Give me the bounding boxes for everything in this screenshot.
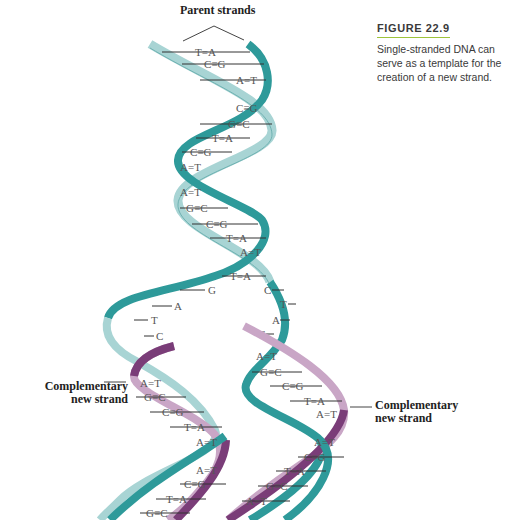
svg-text:C≡G: C≡G bbox=[282, 380, 304, 392]
svg-text:G: G bbox=[208, 284, 216, 296]
svg-text:A=T: A=T bbox=[236, 74, 257, 86]
svg-text:T: T bbox=[280, 298, 287, 310]
svg-text:T=A: T=A bbox=[226, 232, 247, 244]
svg-text:G≡C: G≡C bbox=[260, 366, 281, 378]
figure-caption: FIGURE 22.9 Single-stranded DNA can serv… bbox=[377, 18, 517, 84]
complementary-new-strand-label-right: Complementary new strand bbox=[375, 399, 458, 425]
svg-text:A=T: A=T bbox=[256, 350, 277, 362]
svg-text:T=A: T=A bbox=[195, 46, 216, 58]
figure-number: FIGURE 22.9 bbox=[377, 22, 450, 38]
svg-text:C≡G: C≡G bbox=[162, 406, 184, 418]
dna-replication-figure: T=A C≡G A=T C≡G G≡C T=A C≡G A=T A=T G≡C … bbox=[0, 0, 521, 520]
svg-text:T=A: T=A bbox=[212, 132, 233, 144]
svg-text:C≡G: C≡G bbox=[204, 58, 226, 70]
svg-text:G≡C: G≡C bbox=[228, 118, 249, 130]
svg-text:T=A: T=A bbox=[166, 493, 187, 505]
svg-text:T=A: T=A bbox=[184, 421, 205, 433]
svg-text:C≡G: C≡G bbox=[304, 451, 326, 463]
svg-text:T=A: T=A bbox=[230, 270, 251, 282]
parent-strands-label: Parent strands bbox=[180, 4, 255, 17]
parent-strands-bracket bbox=[183, 26, 244, 41]
svg-text:C≡G: C≡G bbox=[184, 478, 206, 490]
svg-text:A=T: A=T bbox=[196, 436, 217, 448]
svg-text:A=T: A=T bbox=[240, 246, 261, 258]
svg-text:T=A: T=A bbox=[304, 395, 325, 407]
label-line-2: new strand bbox=[18, 393, 128, 406]
svg-text:T: T bbox=[151, 314, 158, 326]
svg-text:G≡C: G≡C bbox=[266, 480, 287, 492]
svg-text:C: C bbox=[264, 284, 271, 296]
svg-text:A: A bbox=[272, 314, 280, 326]
complementary-new-strand-label-left: Complementary new strand bbox=[18, 380, 128, 406]
svg-text:A=T: A=T bbox=[316, 408, 337, 420]
svg-text:A=T: A=T bbox=[140, 377, 161, 389]
svg-text:C≡G: C≡G bbox=[236, 102, 258, 114]
svg-text:T=A: T=A bbox=[284, 465, 305, 477]
svg-text:A=T: A=T bbox=[314, 436, 335, 448]
svg-text:C: C bbox=[156, 330, 163, 342]
svg-text:C≡G: C≡G bbox=[206, 218, 228, 230]
svg-text:A=T: A=T bbox=[180, 161, 201, 173]
svg-text:G≡C: G≡C bbox=[186, 202, 207, 214]
svg-text:A: A bbox=[174, 300, 182, 312]
svg-text:G≡C: G≡C bbox=[144, 391, 165, 403]
svg-text:A=T: A=T bbox=[196, 464, 217, 476]
label-line-2: new strand bbox=[375, 412, 458, 425]
svg-text:A=T: A=T bbox=[246, 495, 267, 507]
svg-text:A=T: A=T bbox=[180, 186, 201, 198]
caption-text: Single-stranded DNA can serve as a templ… bbox=[377, 42, 517, 84]
svg-text:G≡C: G≡C bbox=[146, 507, 167, 519]
svg-text:C≡G: C≡G bbox=[190, 146, 212, 158]
